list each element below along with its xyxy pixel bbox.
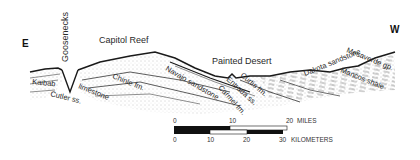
scale-miles-tick-0: 0 [173, 117, 177, 124]
direction-east-label: E [22, 38, 29, 49]
scale-miles-tick-20: 20 [286, 117, 294, 124]
scale-km-unit: KILOMETERS [291, 136, 334, 143]
painted-desert-label: Painted Desert [212, 56, 272, 66]
scale-miles-unit: MILES [297, 117, 317, 124]
cross-section-diagram: E W Goosenecks Capitol Reef Painted Dese… [0, 0, 420, 160]
scale-km-tick-10: 10 [207, 136, 215, 143]
scale-bar: 0 10 20 MILES 0 10 20 30 KILOMETERS [173, 117, 334, 143]
scale-km-tick-30: 30 [279, 136, 287, 143]
scale-km-tick-20: 20 [243, 136, 251, 143]
goosenecks-label: Goosenecks [60, 11, 70, 62]
goosenecks-canyon [62, 70, 78, 92]
scale-km-tick-0: 0 [173, 136, 177, 143]
cutler-label: Cutler ss. [50, 89, 83, 105]
capitol-reef-label: Capitol Reef [99, 35, 149, 45]
direction-west-label: W [390, 24, 400, 35]
scale-miles-tick-10: 10 [229, 117, 237, 124]
